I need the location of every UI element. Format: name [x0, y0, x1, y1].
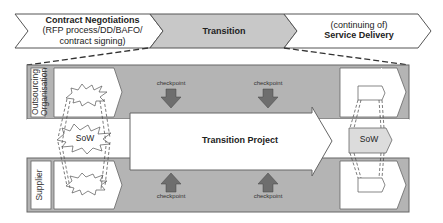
lane-label-line-2: Organisation [40, 68, 49, 116]
phase-detail-line-1: (RFP process/DD/BAFO/ [35, 25, 150, 35]
zoom-line-right [284, 48, 409, 65]
checkpoint-label-bottom-2: checkpoint [248, 193, 288, 199]
checkpoint-label-top-2: checkpoint [248, 80, 288, 86]
checkpoint-label-top-1: checkpoint [151, 80, 191, 86]
sow-label-right: SoW [352, 135, 386, 145]
sow-box-bottom-right [358, 178, 385, 192]
sow-box-top-right [358, 86, 385, 100]
lane-label-supplier: Supplier [35, 161, 47, 209]
phase-pre-service-delivery: (continuing of) [300, 20, 418, 30]
zoom-line-left [27, 48, 148, 65]
checkpoint-label-bottom-1: checkpoint [151, 193, 191, 199]
phase-label-service-delivery: (continuing of) Service Delivery [300, 20, 418, 41]
phase-title-contract-negotiations: Contract Negotiations [35, 15, 150, 25]
phase-label-contract-negotiations: Contract Negotiations (RFP process/DD/BA… [35, 15, 150, 46]
transition-project-label: Transition Project [180, 135, 300, 145]
lane-label-outsourcing-organisation: Outsourcing Organisation [31, 68, 45, 116]
phase-detail-line-2: contract signing) [35, 36, 150, 46]
phase-title-transition: Transition [165, 26, 283, 36]
sow-label-left: SoW [70, 134, 100, 144]
phase-title-service-delivery: Service Delivery [300, 30, 418, 40]
